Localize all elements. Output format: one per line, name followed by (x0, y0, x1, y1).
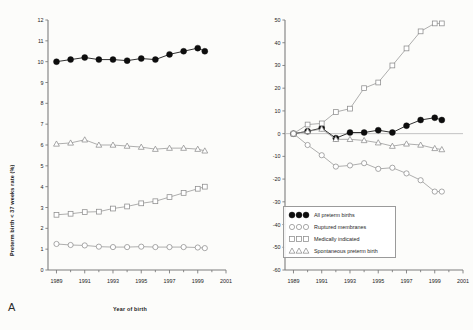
open-circle-marker (289, 224, 294, 229)
open-triangle-legend-glyph (288, 247, 310, 255)
filled-circle-marker (389, 130, 395, 136)
y-tick-label: 5 (41, 163, 44, 169)
filled-circle-marker (289, 212, 295, 218)
legend: All preterm births Ruptured membranes Me… (283, 206, 396, 258)
filled-circle-marker (82, 55, 88, 61)
filled-circle-marker (181, 48, 187, 54)
filled-circle-marker (439, 117, 445, 123)
filled-circle-marker (152, 57, 158, 63)
open-square-marker (68, 211, 73, 216)
x-tick-label: 2001 (220, 278, 232, 284)
open-square-marker (125, 204, 130, 209)
filled-circle-marker (418, 117, 424, 123)
filled-circle-marker (195, 45, 201, 51)
y-tick-label: 20 (275, 85, 281, 91)
y-tick-label: 11 (38, 38, 44, 44)
x-tick-label: 1991 (316, 278, 328, 284)
open-circle-marker (296, 224, 301, 229)
open-square-marker (432, 21, 437, 26)
y-tick-label: -60 (273, 267, 281, 273)
filled-circle-marker (68, 57, 74, 63)
open-circle-marker (390, 165, 395, 170)
open-square-marker (139, 201, 144, 206)
filled-circle-marker (53, 59, 59, 65)
open-square-icon (288, 235, 310, 243)
y-tick-label: 10 (275, 108, 281, 114)
open-circle-marker (54, 241, 59, 246)
open-circle-marker (418, 178, 423, 183)
open-circle-marker (404, 171, 409, 176)
open-triangle-marker (303, 248, 309, 253)
open-circle-marker (347, 163, 352, 168)
open-triangle-marker (110, 142, 116, 147)
open-circle-marker (82, 243, 87, 248)
figure-root: Preterm birth < 37 weeks rate (%) Year o… (0, 0, 473, 330)
x-tick-label: 1995 (372, 278, 384, 284)
open-circle-marker (110, 244, 115, 249)
y-tick-label: 40 (275, 40, 281, 46)
y-tick-label: 8 (41, 100, 44, 106)
open-circle-marker (96, 244, 101, 249)
y-tick-label: -30 (273, 199, 281, 205)
filled-circle-marker (403, 123, 409, 129)
open-circle-marker (167, 244, 172, 249)
open-triangle-marker (181, 145, 187, 150)
panel-a: Preterm birth < 37 weeks rate (%) Year o… (0, 0, 236, 330)
panel-b: Change in preterm birth rate relative to… (236, 0, 472, 330)
open-square-marker (153, 199, 158, 204)
filled-circle-legend-glyph (288, 211, 310, 219)
open-triangle-marker (296, 248, 302, 253)
open-square-marker (418, 29, 423, 34)
y-tick-label: -50 (273, 244, 281, 250)
open-circle-marker (202, 246, 207, 251)
open-square-marker (348, 106, 353, 111)
x-tick-label: 1999 (429, 278, 441, 284)
y-tick-label: -40 (273, 222, 281, 228)
x-tick-label: 1997 (400, 278, 412, 284)
y-tick-label: 0 (41, 267, 44, 273)
x-tick-label: 1991 (79, 278, 91, 284)
x-tick-label: 1993 (107, 278, 119, 284)
open-square-marker (390, 63, 395, 68)
legend-item-all-preterm-births: All preterm births (288, 209, 355, 220)
open-square-marker (167, 195, 172, 200)
open-square-marker (304, 236, 309, 241)
open-circle-marker (333, 164, 338, 169)
y-tick-label: 0 (278, 131, 281, 137)
open-square-marker (404, 46, 409, 51)
y-tick-label: 50 (275, 17, 281, 23)
open-square-marker (96, 209, 101, 214)
x-tick-label: 1993 (344, 278, 356, 284)
open-square-marker (202, 184, 207, 189)
open-circle-marker (362, 161, 367, 166)
open-triangle-marker (289, 248, 295, 253)
legend-item-medically-indicated: Medically indicated (288, 233, 360, 244)
open-square-marker (82, 210, 87, 215)
open-circle-marker (68, 242, 73, 247)
open-circle-icon (288, 223, 310, 231)
open-triangle-marker (404, 141, 410, 146)
open-circle-marker (139, 244, 144, 249)
open-square-marker (181, 191, 186, 196)
open-circle-marker (125, 244, 130, 249)
open-square-marker (319, 121, 324, 126)
legend-label: Medically indicated (314, 236, 360, 242)
open-square-marker (376, 80, 381, 85)
y-tick-label: 2 (41, 225, 44, 231)
x-tick-label: 1997 (163, 278, 175, 284)
filled-circle-marker (361, 130, 367, 136)
open-triangle-marker (82, 137, 88, 142)
x-tick-label: 1989 (287, 278, 299, 284)
filled-circle-marker (124, 58, 130, 64)
x-tick-label: 1989 (50, 278, 62, 284)
filled-circle-marker (296, 212, 302, 218)
open-square-marker (333, 110, 338, 115)
open-square-marker (54, 212, 59, 217)
legend-label: Ruptured membranes (314, 224, 366, 230)
x-tick-label: 2001 (457, 278, 469, 284)
filled-circle-marker (96, 57, 102, 63)
open-circle-marker (291, 131, 296, 136)
open-circle-marker (303, 224, 308, 229)
legend-label: All preterm births (314, 212, 355, 218)
filled-circle-marker (110, 57, 116, 63)
